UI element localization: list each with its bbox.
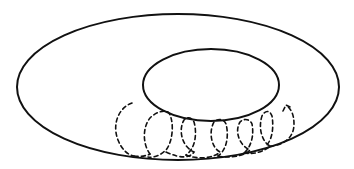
helix-loop-2 [144, 111, 172, 157]
helix-loop-1 [116, 103, 134, 156]
helix-loop-1-back [134, 154, 150, 156]
torus-diagram [0, 0, 354, 169]
inner-ellipse [143, 49, 279, 121]
helical-path [116, 103, 294, 158]
outer-ellipse [17, 14, 339, 160]
helix-loop-4 [186, 120, 227, 158]
helix-loop-3 [166, 118, 195, 157]
